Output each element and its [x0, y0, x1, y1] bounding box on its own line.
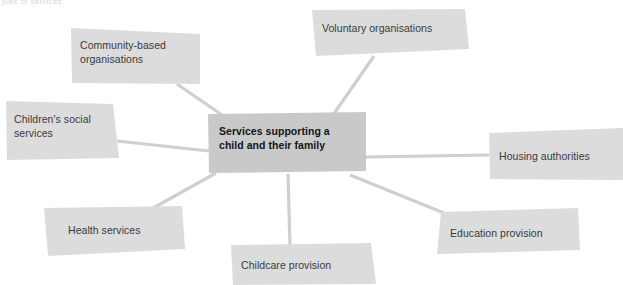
node-label-childrens-social-services: Children's social services [14, 112, 91, 140]
node-label-voluntary-organisations: Voluntary organisations [322, 21, 432, 35]
connector-housing [366, 155, 489, 157]
connector-voluntary [333, 56, 374, 115]
diagram-canvas: ples of services Voluntary organisations… [0, 0, 623, 285]
node-label-housing-authorities: Housing authorities [499, 149, 590, 163]
connector-community [177, 84, 222, 115]
connector-childcare [288, 174, 290, 246]
connector-childrens-social [117, 141, 209, 151]
node-label-childcare-provision: Childcare provision [241, 258, 331, 272]
connector-education [350, 175, 444, 213]
node-label-community-based-organisations: Community-based organisations [80, 38, 166, 66]
node-label-center: Services supporting a child and their fa… [219, 124, 330, 152]
node-label-health-services: Health services [68, 223, 141, 237]
node-label-education-provision: Education provision [450, 226, 543, 240]
